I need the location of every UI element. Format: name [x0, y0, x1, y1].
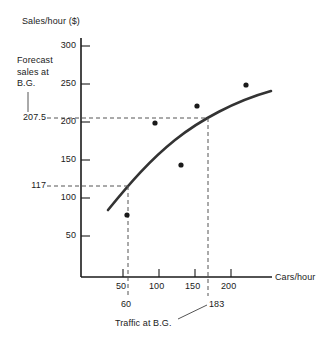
forecast-callout-line-2: sales at [17, 67, 53, 79]
traffic-callout-leader [178, 305, 207, 319]
data-point [152, 120, 157, 125]
y-tick-label-50: 50 [44, 230, 76, 241]
chart-plot-area [0, 0, 325, 345]
x-tick-label-200: 200 [221, 281, 236, 292]
y-tick-label-300: 300 [44, 40, 76, 51]
data-point [124, 212, 129, 217]
y-tick-label-100: 100 [44, 192, 76, 203]
x-tick-label-150: 150 [185, 281, 200, 292]
data-point [243, 82, 248, 87]
x-axis-title: Cars/hour [275, 272, 315, 283]
data-points [124, 82, 248, 217]
traffic-low-label: 60 [121, 299, 131, 310]
x-tick-label-100: 100 [149, 281, 164, 292]
forecast-callout: Forecast sales at B.G. [17, 55, 53, 90]
lower-value-label: 117 [6, 180, 46, 191]
data-point [194, 103, 199, 108]
forecast-callout-line-3: B.G. [17, 78, 53, 90]
y-axis-ticks [81, 46, 90, 236]
y-axis-title: Sales/hour ($) [22, 16, 80, 27]
forecast-value-label: 207.5 [6, 112, 46, 123]
data-point [178, 162, 183, 167]
x-tick-label-50: 50 [116, 281, 126, 292]
fitted-curve [108, 91, 271, 210]
y-tick-label-200: 200 [44, 116, 76, 127]
forecast-callout-line-1: Forecast [17, 55, 53, 67]
y-tick-label-150: 150 [44, 154, 76, 165]
x-axis-ticks [123, 269, 231, 277]
traffic-callout-label: Traffic at B.G. [115, 318, 172, 329]
scatter-chart: Sales/hour ($) Cars/hour 300 250 200 150… [0, 0, 325, 345]
traffic-high-label: 183 [209, 299, 224, 310]
